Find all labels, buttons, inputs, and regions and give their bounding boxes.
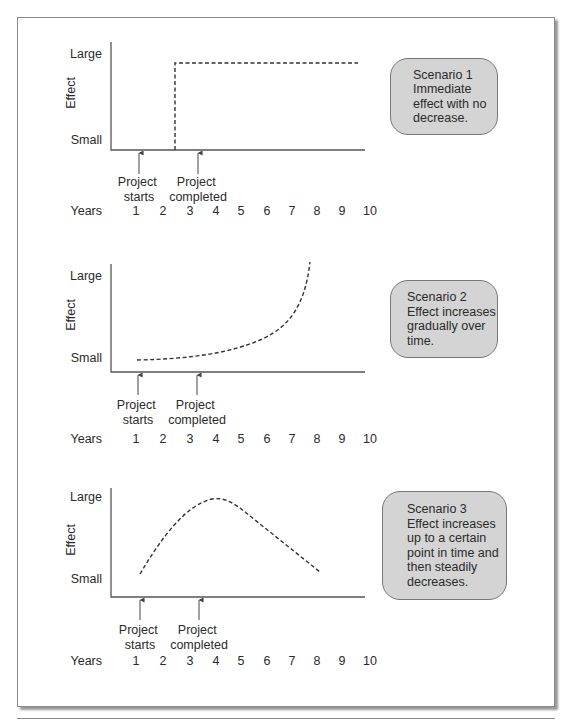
callout-title: Scenario 3 (407, 502, 506, 517)
effect-curve (137, 262, 310, 360)
svg-text:6: 6 (264, 654, 271, 668)
svg-text:3: 3 (187, 204, 194, 218)
panel-scenario-3: Large Small Effect Project starts Projec… (64, 488, 377, 668)
svg-text:8: 8 (314, 204, 321, 218)
y-axis-title: Effect (64, 524, 78, 556)
marker-start-label: Project starts (119, 623, 161, 652)
svg-text:9: 9 (339, 654, 346, 668)
svg-text:5: 5 (238, 432, 245, 446)
x-tick-labels: 1 2 3 4 5 6 7 8 9 10 (133, 432, 377, 446)
scenario-3-callout: Scenario 3 Effect increases up to a cert… (382, 491, 507, 600)
svg-text:10: 10 (363, 204, 377, 218)
x-axis-title: Years (70, 432, 102, 446)
svg-text:8: 8 (314, 654, 321, 668)
y-axis-title: Effect (64, 299, 78, 331)
svg-text:5: 5 (238, 204, 245, 218)
svg-text:9: 9 (339, 204, 346, 218)
svg-text:1: 1 (133, 204, 140, 218)
x-tick-labels: 1 2 3 4 5 6 7 8 9 10 (133, 654, 377, 668)
scenario-2-callout: Scenario 2 Effect increases gradually ov… (390, 280, 498, 358)
y-top-label: Large (70, 47, 102, 61)
marker-complete-label: Project completed (169, 175, 227, 204)
effect-curve (140, 499, 320, 574)
panel-scenario-2: Large Small Effect Project starts Projec… (64, 262, 377, 446)
svg-text:7: 7 (289, 654, 296, 668)
y-top-label: Large (70, 269, 102, 283)
x-tick-labels: 1 2 3 4 5 6 7 8 9 10 (133, 204, 377, 218)
svg-text:2: 2 (160, 204, 167, 218)
svg-text:10: 10 (363, 432, 377, 446)
svg-text:2: 2 (160, 654, 167, 668)
svg-text:10: 10 (363, 654, 377, 668)
svg-text:7: 7 (289, 204, 296, 218)
svg-text:3: 3 (187, 654, 194, 668)
axes (111, 264, 365, 372)
effect-curve (175, 63, 358, 150)
marker-complete-label: Project completed (170, 623, 228, 652)
svg-text:6: 6 (264, 204, 271, 218)
x-axis-title: Years (70, 654, 102, 668)
y-bottom-label: Small (71, 133, 102, 147)
y-axis-title: Effect (64, 77, 78, 109)
y-bottom-label: Small (71, 572, 102, 586)
svg-text:1: 1 (133, 654, 140, 668)
svg-text:3: 3 (187, 432, 194, 446)
axes (111, 42, 365, 150)
callout-title: Scenario 2 (407, 290, 497, 305)
x-axis-title: Years (70, 204, 102, 218)
svg-text:7: 7 (289, 432, 296, 446)
svg-text:4: 4 (213, 204, 220, 218)
svg-text:1: 1 (133, 432, 140, 446)
svg-text:4: 4 (213, 654, 220, 668)
marker-start-label: Project starts (117, 398, 159, 427)
marker-start-label: Project starts (118, 175, 160, 204)
axes (111, 488, 365, 597)
svg-text:2: 2 (160, 432, 167, 446)
svg-text:8: 8 (314, 432, 321, 446)
panel-scenario-1: Large Small Effect Project starts Projec… (64, 42, 377, 218)
y-top-label: Large (70, 490, 102, 504)
svg-text:5: 5 (238, 654, 245, 668)
svg-text:9: 9 (339, 432, 346, 446)
scenario-1-callout: Scenario 1 Immediate effect with no decr… (390, 58, 498, 135)
svg-text:6: 6 (264, 432, 271, 446)
y-bottom-label: Small (71, 351, 102, 365)
callout-title: Scenario 1 (413, 68, 497, 83)
svg-text:4: 4 (213, 432, 220, 446)
marker-complete-label: Project completed (168, 398, 226, 427)
